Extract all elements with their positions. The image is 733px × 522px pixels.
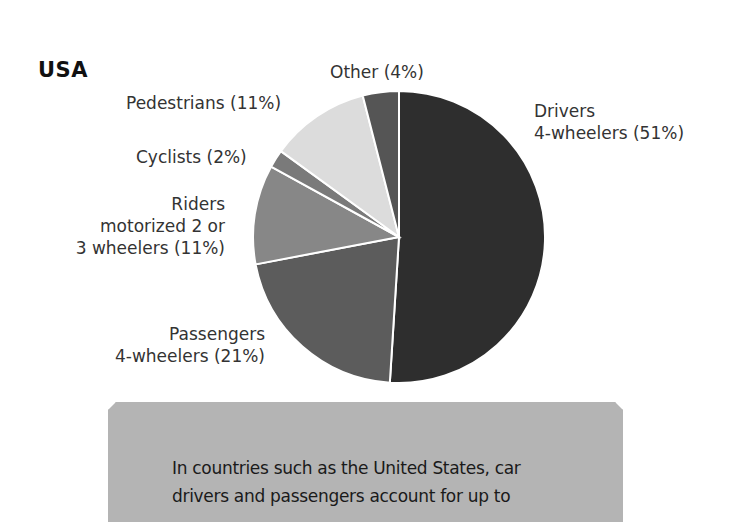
info-note-box: In countries such as the United States, … <box>108 402 623 522</box>
label-passengers-line2: 4-wheelers (21%) <box>90 345 265 367</box>
label-other: Other (4%) <box>330 61 424 83</box>
label-passengers-line1: Passengers <box>90 323 265 345</box>
label-riders: Riders motorized 2 or 3 wheelers (11%) <box>60 193 225 259</box>
label-drivers: Drivers 4-wheelers (51%) <box>534 100 684 144</box>
label-riders-line1: Riders <box>60 193 225 215</box>
info-note-text: In countries such as the United States, … <box>172 454 592 510</box>
label-cyclists: Cyclists (2%) <box>136 146 247 168</box>
pie-slice-drivers <box>390 91 545 383</box>
label-drivers-line1: Drivers <box>534 100 684 122</box>
label-riders-line3: 3 wheelers (11%) <box>60 237 225 259</box>
label-pedestrians: Pedestrians (11%) <box>126 92 281 114</box>
info-note-line1: In countries such as the United States, … <box>172 454 592 482</box>
label-riders-line2: motorized 2 or <box>60 215 225 237</box>
label-passengers: Passengers 4-wheelers (21%) <box>90 323 265 367</box>
label-drivers-line2: 4-wheelers (51%) <box>534 122 684 144</box>
info-note-line2: drivers and passengers account for up to <box>172 482 592 510</box>
